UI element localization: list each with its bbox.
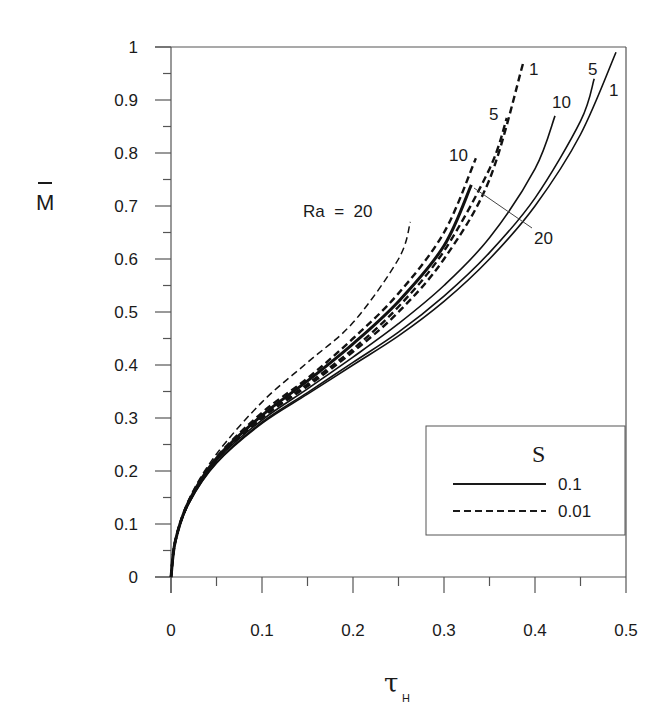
x-axis-ticks: 00.10.20.30.40.5 — [166, 577, 638, 640]
curve-annotation: 1 — [609, 81, 618, 100]
x-tick-label: 0.3 — [432, 621, 456, 640]
curve-annotation: 5 — [489, 105, 498, 124]
legend-box — [426, 426, 625, 535]
x-tick-label: 0.4 — [523, 621, 547, 640]
x-tick-label: 0 — [166, 621, 175, 640]
y-tick-label: 0.1 — [114, 515, 138, 534]
y-tick-label: 0.8 — [114, 144, 138, 163]
y-tick-label: 0.2 — [114, 462, 138, 481]
y-tick-label: 0.7 — [114, 197, 138, 216]
legend: S 0.1 0.01 — [426, 426, 625, 535]
y-tick-label: 0.9 — [114, 91, 138, 110]
y-tick-label: 0.3 — [114, 409, 138, 428]
y-axis-title: M — [36, 183, 54, 215]
curve-annotation: Ra = 20 — [303, 202, 372, 221]
y-tick-label: 0.5 — [114, 303, 138, 322]
chart: 00.10.20.30.40.50.60.70.80.91 00.10.20.3… — [0, 0, 671, 728]
y-axis-ticks: 00.10.20.30.40.50.60.70.80.91 — [114, 38, 171, 587]
annotations: Ra = 201051105120 — [303, 60, 618, 248]
curve-annotation: 10 — [552, 93, 571, 112]
y-tick-label: 1 — [129, 38, 138, 57]
legend-label-dashed: 0.01 — [558, 502, 591, 521]
curve-annotation: 20 — [534, 229, 553, 248]
leader-line — [474, 188, 532, 228]
legend-title: S — [532, 441, 545, 467]
y-axis-label: M — [36, 190, 54, 215]
x-tick-label: 0.1 — [250, 621, 274, 640]
legend-label-solid: 0.1 — [558, 475, 582, 494]
curve-annotation: 1 — [529, 60, 538, 79]
x-tick-label: 0.2 — [341, 621, 365, 640]
x-axis-label-sub: H — [402, 692, 410, 704]
y-tick-label: 0.6 — [114, 250, 138, 269]
x-axis-label-main: τ — [384, 668, 398, 698]
y-tick-label: 0.4 — [114, 356, 138, 375]
x-axis-title: τ H — [384, 668, 410, 704]
y-tick-label: 0 — [129, 568, 138, 587]
curve-annotation: 10 — [449, 146, 468, 165]
x-tick-label: 0.5 — [614, 621, 638, 640]
curve-annotation: 5 — [588, 60, 597, 79]
